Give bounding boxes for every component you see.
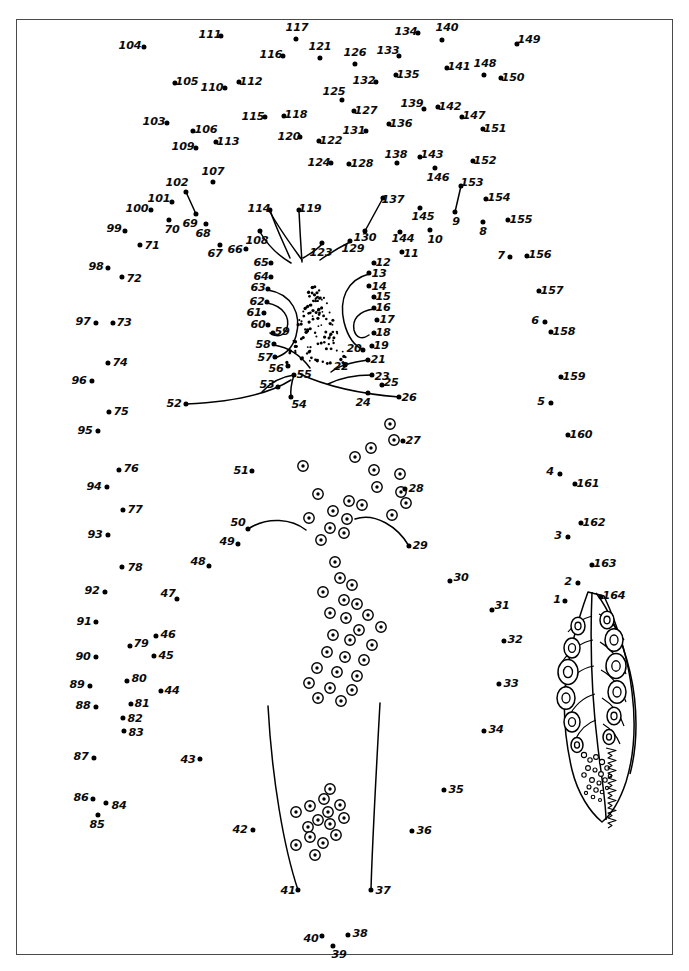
dot-number-label: 114 <box>248 203 271 214</box>
pollen-dot <box>294 350 296 352</box>
worksheet-sheet: 1234567891011121314151617181920212223242… <box>0 0 689 971</box>
dot-number-label: 39 <box>331 949 346 960</box>
pollen-dot <box>328 343 330 345</box>
seed-core <box>342 598 345 601</box>
dot-number-label: 81 <box>134 698 149 709</box>
pollen-dot <box>309 346 311 348</box>
pollen-dot <box>325 347 328 350</box>
pollen-dot <box>329 312 331 314</box>
leaf-fine-speck <box>594 755 599 760</box>
dot-number-label: 151 <box>484 123 507 134</box>
dot-number-label: 21 <box>370 354 385 365</box>
dot-number-label: 101 <box>148 193 171 204</box>
leaf-fine-speck <box>590 778 595 783</box>
leaf-fine-speck <box>586 766 591 771</box>
dot-number-label: 2 <box>564 576 572 587</box>
pollen-dot <box>323 341 325 343</box>
dot-number-label: 32 <box>507 634 522 645</box>
dot-number-label: 63 <box>250 282 265 293</box>
dot-number-label: 44 <box>164 685 179 696</box>
pollen-speckle-group <box>285 285 346 365</box>
dot-number-label: 157 <box>541 285 564 296</box>
seed-core <box>328 526 331 529</box>
pollen-dot <box>317 325 319 327</box>
dot-number-label: 6 <box>531 315 539 326</box>
botanical-leaf-illustration <box>557 592 636 828</box>
pollen-dot <box>316 360 319 363</box>
dot-number-label: 117 <box>286 22 309 33</box>
pollen-dot <box>320 324 322 326</box>
seed-core <box>308 835 311 838</box>
pollen-dot <box>342 355 345 358</box>
pollen-dot <box>336 350 338 352</box>
dot-number-label: 121 <box>309 41 332 52</box>
pollen-dot <box>321 299 323 301</box>
dot-number-label: 92 <box>84 585 99 596</box>
pollen-dot <box>336 331 338 333</box>
dot-number-label: 24 <box>355 397 370 408</box>
pollen-dot <box>318 313 321 316</box>
seed-core <box>355 602 358 605</box>
pollen-dot <box>314 331 316 333</box>
dot-number-label: 95 <box>77 425 92 436</box>
leaf-fine-speck <box>582 773 586 777</box>
pollen-dot <box>307 346 309 348</box>
dot-number-label: 27 <box>405 435 420 446</box>
dot-number-label: 89 <box>69 679 84 690</box>
seed-core <box>328 611 331 614</box>
dot-number-label: 80 <box>131 673 146 684</box>
dot-number-label: 71 <box>144 240 159 251</box>
seed-core <box>370 643 373 646</box>
pollen-dot <box>315 291 318 294</box>
pollen-dot <box>330 347 333 350</box>
dot-number-label: 84 <box>111 800 126 811</box>
seed-core <box>379 625 382 628</box>
dot-number-label: 138 <box>385 149 408 160</box>
pollen-dot <box>322 311 324 313</box>
dot-number-label: 88 <box>75 700 90 711</box>
pollen-dot <box>332 336 335 339</box>
dot-number-label: 36 <box>416 825 431 836</box>
seed-core <box>388 422 391 425</box>
dot-number-label: 4 <box>546 466 554 477</box>
dot-number-label: 60 <box>250 319 265 330</box>
dot-number-label: 131 <box>343 125 366 136</box>
dot-number-label: 108 <box>246 235 269 246</box>
seed-core <box>390 513 393 516</box>
dot-number-label: 110 <box>201 82 224 93</box>
pollen-dot <box>324 331 327 334</box>
pollen-dot <box>302 310 304 312</box>
leaf-gland-inner <box>564 666 573 677</box>
pollen-dot <box>308 350 311 353</box>
dot-number-label: 94 <box>86 481 101 492</box>
leaf-gland-inner <box>607 734 612 740</box>
leaf-gland-inner <box>569 718 576 727</box>
dot-number-label: 57 <box>257 352 272 363</box>
pollen-dot <box>320 342 323 345</box>
dot-number-label: 34 <box>488 724 503 735</box>
dot-number-label: 40 <box>303 933 318 944</box>
leaf-gland-inner <box>611 712 617 720</box>
segment-153-9 <box>455 186 461 212</box>
dot-number-label: 116 <box>260 49 283 60</box>
dot-number-label: 18 <box>375 327 390 338</box>
dot-number-label: 59 <box>274 326 289 337</box>
dot-number-label: 64 <box>253 271 268 282</box>
pollen-dot <box>288 352 291 355</box>
dot-number-label: 45 <box>158 650 173 661</box>
dot-number-label: 51 <box>233 465 248 476</box>
dot-number-label: 73 <box>116 317 131 328</box>
dot-number-label: 134 <box>395 26 418 37</box>
seed-core <box>321 590 324 593</box>
seed-core <box>322 797 325 800</box>
leaf-fine-speck <box>584 791 587 794</box>
dot-number-label: 153 <box>461 177 484 188</box>
leaf-fine-speck <box>599 799 602 802</box>
pollen-dot <box>318 297 321 300</box>
seed-core <box>294 843 297 846</box>
dot-number-label: 141 <box>448 61 471 72</box>
seed-core <box>344 616 347 619</box>
pollen-dot <box>298 319 300 321</box>
dot-number-label: 159 <box>563 371 586 382</box>
seed-core <box>345 517 348 520</box>
